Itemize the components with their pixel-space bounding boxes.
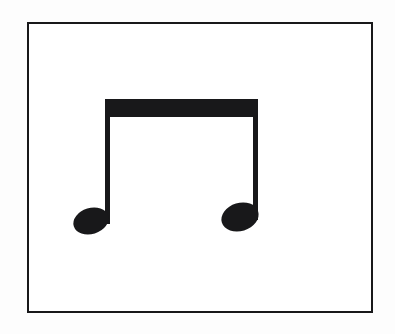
rectangular-border bbox=[27, 22, 373, 313]
figure-canvas: beamed-eighth-note-pair bbox=[0, 0, 395, 334]
